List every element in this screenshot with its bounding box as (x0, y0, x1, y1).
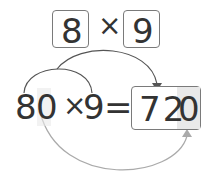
result-zero: 0 (178, 92, 200, 126)
result-box: 72 0 (131, 86, 201, 130)
operand-nine: 9 (83, 90, 105, 124)
top-times-sign: × (98, 12, 121, 40)
factor-box-right: 9 (123, 10, 160, 48)
arc-to-result (57, 50, 157, 84)
arrowhead-up-icon (182, 129, 192, 137)
equals-sign: = (104, 90, 133, 124)
factor-left: 8 (61, 14, 83, 48)
operand-tens: 8 (15, 90, 37, 124)
factor-box-left: 8 (52, 10, 89, 48)
factor-right: 9 (132, 14, 154, 48)
operand-zero: 0 (36, 90, 58, 124)
